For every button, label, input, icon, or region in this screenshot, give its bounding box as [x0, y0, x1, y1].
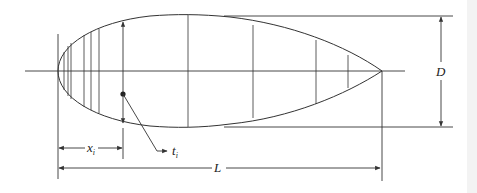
length-label: L: [213, 160, 221, 175]
diameter-label: D: [435, 64, 446, 79]
station-position-label: xi: [86, 140, 95, 157]
thickness-label: ti: [172, 143, 178, 160]
edge-strip: [467, 0, 477, 193]
airfoil-body-diagram: ti xi L D: [0, 0, 477, 193]
